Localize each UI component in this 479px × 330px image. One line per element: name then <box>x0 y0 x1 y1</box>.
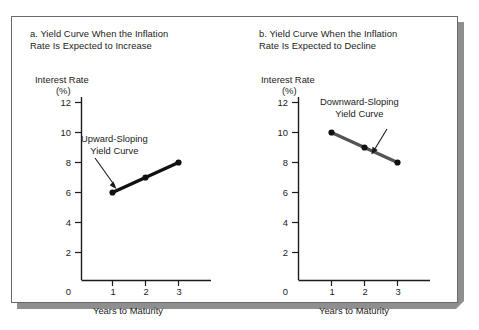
y-tick-label-4-b: 4 <box>272 217 288 228</box>
data-point-b-2 <box>361 144 367 150</box>
y-tick-label-8-a: 8 <box>55 157 71 168</box>
x-axis-title-a: Years to Maturity <box>93 305 163 317</box>
data-point-b-1 <box>328 129 334 135</box>
x-tick-label-2-b: 2 <box>358 286 372 297</box>
panel-a: a. Yield Curve When the Inflation Rate I… <box>11 16 235 303</box>
plot-svg-a <box>11 16 235 303</box>
y-tick-label-4-a: 4 <box>55 217 71 228</box>
plot-svg-b <box>235 16 459 303</box>
x-tick-label-1-a: 1 <box>106 286 120 297</box>
data-point-a-3 <box>175 159 181 165</box>
y-tick-label-6-a: 6 <box>55 187 71 198</box>
y-tick-label-8-b: 8 <box>272 157 288 168</box>
x-axis-title-b: Years to Maturity <box>319 305 389 317</box>
data-point-b-3 <box>394 159 400 165</box>
curve-annotation-b: Downward-Sloping Yield Curve <box>320 96 399 119</box>
y-tick-label-12-b: 12 <box>272 97 288 108</box>
y-tick-label-2-b: 2 <box>272 247 288 258</box>
y-tick-label-0-a: 0 <box>55 286 71 297</box>
yield-curve-figure: a. Yield Curve When the Inflation Rate I… <box>0 0 479 330</box>
panel-b: b. Yield Curve When the Inflation Rate I… <box>235 16 459 303</box>
x-tick-label-3-a: 3 <box>172 286 186 297</box>
y-tick-label-10-a: 10 <box>55 127 71 138</box>
x-tick-label-1-b: 1 <box>325 286 339 297</box>
data-point-a-1 <box>109 189 115 195</box>
y-tick-label-12-a: 12 <box>55 97 71 108</box>
y-tick-label-10-b: 10 <box>272 127 288 138</box>
y-tick-label-0-b: 0 <box>272 286 288 297</box>
y-tick-label-6-b: 6 <box>272 187 288 198</box>
x-tick-label-2-a: 2 <box>139 286 153 297</box>
plot-area-b <box>235 16 459 303</box>
data-point-a-2 <box>142 174 148 180</box>
x-tick-label-3-b: 3 <box>391 286 405 297</box>
annotation-arrow-line-a <box>95 158 115 186</box>
y-tick-label-2-a: 2 <box>55 247 71 258</box>
annotation-arrow-head-a <box>110 181 117 189</box>
plot-area-a <box>11 16 235 303</box>
